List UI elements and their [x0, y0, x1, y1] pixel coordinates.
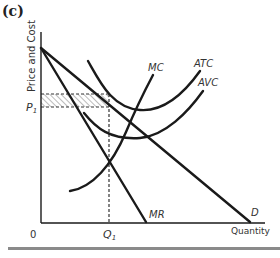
- d-label: D: [251, 207, 259, 218]
- panel-label: (c): [2, 3, 24, 19]
- mc-curve: [70, 75, 153, 191]
- mr-curve: [41, 48, 146, 222]
- bottom-rule: [8, 247, 280, 250]
- demand-curve: [41, 48, 250, 222]
- chart: (c) Price and Cost P1 0 Q1 Quantity MC A…: [0, 0, 280, 258]
- atc-label: ATC: [193, 58, 213, 69]
- axes: [41, 32, 265, 223]
- mr-label: MR: [149, 209, 165, 220]
- x-axis-label: Quantity: [231, 226, 271, 236]
- origin-label: 0: [30, 229, 36, 240]
- y-axis-label: Price and Cost: [26, 20, 37, 92]
- q1-label: Q1: [103, 228, 116, 242]
- p1-label: P1: [26, 101, 37, 115]
- avc-label: AVC: [197, 77, 218, 88]
- curves: [41, 48, 250, 222]
- mc-label: MC: [148, 62, 164, 73]
- guide-lines: [41, 94, 109, 223]
